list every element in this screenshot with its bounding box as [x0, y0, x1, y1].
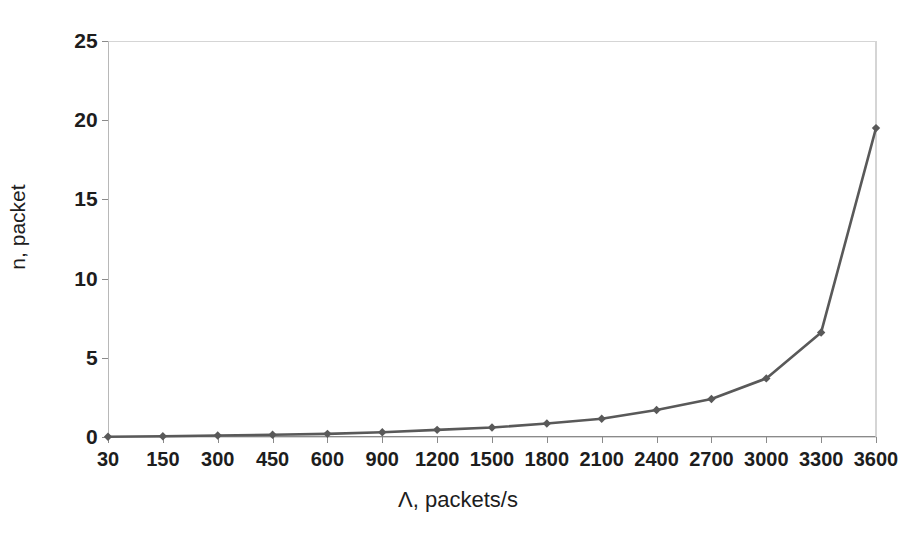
x-axis-title: Λ, packets/s	[0, 487, 916, 513]
y-tick-label: 15	[52, 188, 98, 209]
y-tick-label: 10	[52, 268, 98, 289]
chart-figure: 0510152025 30150300450600900120015001800…	[0, 0, 916, 546]
y-tick-label: 5	[52, 347, 98, 368]
plot-area	[108, 41, 876, 437]
y-axis-title-wrap: n, packet	[0, 0, 40, 546]
x-axis-ticks: 3015030045060090012001500180021002400270…	[0, 449, 916, 479]
y-axis-title: n, packet	[6, 147, 30, 307]
x-tick-label: 3600	[831, 449, 916, 469]
y-tick-label: 20	[52, 109, 98, 130]
y-tick-label: 0	[52, 426, 98, 447]
y-tick-label: 25	[52, 30, 98, 51]
